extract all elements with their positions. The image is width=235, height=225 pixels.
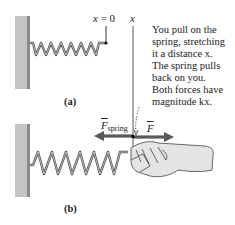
annotation-line: The spring pulls bbox=[152, 60, 225, 72]
annotation-line: You pull on the bbox=[152, 24, 225, 36]
annotation-line: magnitude kx. bbox=[152, 96, 225, 108]
annotation-line: back on you. bbox=[152, 72, 225, 84]
hand-illustration bbox=[131, 142, 213, 177]
x-label: x bbox=[130, 12, 135, 24]
annotation-line: it a distance x. bbox=[152, 48, 225, 60]
x-zero-label: x = 0 bbox=[93, 12, 115, 24]
annotation-text: You pull on the spring, stretching it a … bbox=[152, 24, 225, 108]
annotation-line: spring, stretching bbox=[152, 36, 225, 48]
spring-force-label: Fspring bbox=[101, 119, 128, 135]
caption-a: (a) bbox=[64, 96, 76, 107]
caption-b: (b) bbox=[64, 203, 77, 214]
wall-a bbox=[15, 16, 29, 89]
wall-b bbox=[15, 124, 29, 197]
spring-force-diagram: x = 0 x (a) You pull on the spring, stre… bbox=[0, 0, 235, 225]
annotation-line: Both forces have bbox=[152, 84, 225, 96]
applied-force-label: F bbox=[147, 122, 154, 134]
